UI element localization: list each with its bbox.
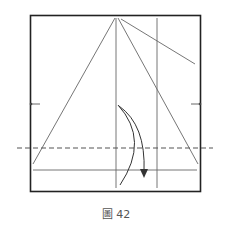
right-midpoint-dot xyxy=(199,103,202,106)
paper-square xyxy=(31,16,201,192)
left-diagonal-crease xyxy=(33,18,115,164)
left-midpoint-dot xyxy=(30,103,33,106)
origami-diagram xyxy=(0,0,228,233)
figure-caption: 圖 42 xyxy=(0,205,228,221)
arrowhead-icon xyxy=(140,169,148,178)
fold-arrow-inner-curve xyxy=(118,105,135,185)
right-diagonal-crease xyxy=(118,18,198,164)
upper-right-crease xyxy=(121,19,195,64)
